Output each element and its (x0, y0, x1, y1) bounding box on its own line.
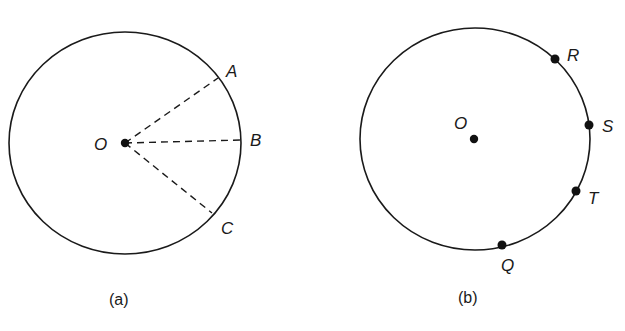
figure-a: O A B C (a) (9, 32, 261, 308)
center-dot-a (121, 139, 129, 147)
point-dot-q (498, 241, 507, 250)
radius-oa (125, 78, 218, 143)
center-label-b: O (454, 114, 467, 133)
center-dot-b (470, 135, 478, 143)
point-label-t: T (588, 189, 600, 208)
point-dot-t (572, 187, 581, 196)
point-label-b: B (250, 131, 261, 150)
point-dot-r (551, 55, 560, 64)
point-label-q: Q (501, 256, 514, 275)
point-label-c: C (221, 219, 234, 238)
caption-a: (a) (109, 291, 129, 308)
point-dot-s (585, 121, 594, 130)
point-label-a: A (225, 62, 237, 81)
point-label-s: S (602, 117, 614, 136)
radius-oc (125, 143, 212, 213)
caption-b: (b) (458, 289, 478, 306)
center-label-a: O (94, 135, 107, 154)
diagram-canvas: O A B C (a) O R S T Q (b) (0, 0, 625, 331)
point-label-r: R (567, 46, 579, 65)
figure-b: O R S T Q (b) (360, 28, 614, 306)
radius-ob (125, 140, 241, 143)
